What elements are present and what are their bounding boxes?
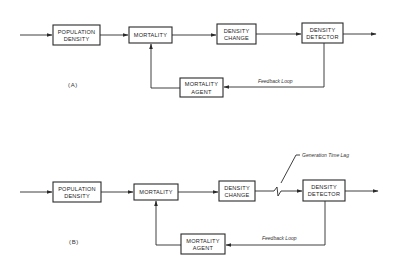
- feedback-label: Feedback Loop: [258, 78, 293, 84]
- block-label: MORTALITY: [134, 32, 167, 38]
- panel-b: POPULATION DENSITY MORTALITY DENSITY CHA…: [20, 152, 378, 254]
- block-population-density: POPULATION DENSITY: [53, 182, 101, 202]
- block-mortality-agent: MORTALITY AGENT: [180, 78, 223, 97]
- block-label: DETECTOR: [308, 191, 340, 197]
- panel-label: (B): [69, 239, 79, 245]
- block-label: DENSITY: [311, 184, 337, 190]
- block-label: DENSITY: [224, 28, 250, 34]
- block-label: MORTALITY: [139, 189, 172, 195]
- block-label: POPULATION: [58, 186, 96, 192]
- block-label: POPULATION: [58, 29, 96, 35]
- agent-to-mortality-line: [151, 44, 180, 88]
- block-mortality: MORTALITY: [134, 184, 178, 200]
- block-mortality: MORTALITY: [129, 27, 172, 43]
- time-lag-leader: [281, 155, 296, 183]
- time-lag-edge: [255, 187, 302, 196]
- block-density-detector: DENSITY DETECTOR: [302, 23, 343, 43]
- block-density-change: DENSITY CHANGE: [219, 181, 255, 201]
- block-label: AGENT: [193, 245, 214, 251]
- block-mortality-agent: MORTALITY AGENT: [181, 234, 225, 254]
- panel-label: (A): [68, 82, 78, 88]
- block-population-density: POPULATION DENSITY: [53, 25, 100, 45]
- block-label: DENSITY: [310, 27, 336, 33]
- panel-a: POPULATION DENSITY MORTALITY DENSITY CHA…: [20, 23, 376, 97]
- time-lag-label: Generation Time Lag: [302, 152, 349, 158]
- block-label: DETECTOR: [306, 34, 338, 40]
- feedback-diagram: POPULATION DENSITY MORTALITY DENSITY CHA…: [0, 0, 397, 272]
- agent-to-mortality-line: [156, 201, 181, 245]
- block-label: DENSITY: [64, 193, 90, 199]
- block-label: DENSITY: [224, 185, 250, 191]
- block-density-detector: DENSITY DETECTOR: [303, 180, 345, 201]
- block-label: MORTALITY: [186, 238, 219, 244]
- block-density-change: DENSITY CHANGE: [217, 24, 256, 44]
- block-label: AGENT: [191, 89, 212, 95]
- block-label: DENSITY: [64, 36, 90, 42]
- block-label: CHANGE: [224, 192, 249, 198]
- block-label: MORTALITY: [185, 81, 218, 87]
- block-label: CHANGE: [224, 35, 249, 41]
- feedback-label: Feedback Loop: [262, 235, 297, 241]
